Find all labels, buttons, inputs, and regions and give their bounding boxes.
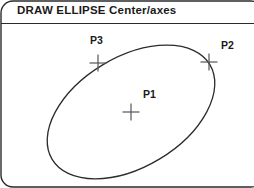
marker-p3 — [90, 55, 107, 72]
ellipse-diagram-panel: DRAW ELLIPSE Center/axes P1 P2 P3 — [0, 0, 254, 188]
ellipse-outline — [24, 17, 238, 188]
point-label-p3: P3 — [90, 34, 103, 46]
point-label-p2: P2 — [221, 39, 234, 51]
ellipse-figure — [0, 0, 254, 188]
marker-p1 — [123, 104, 140, 121]
point-label-p1: P1 — [143, 88, 156, 100]
